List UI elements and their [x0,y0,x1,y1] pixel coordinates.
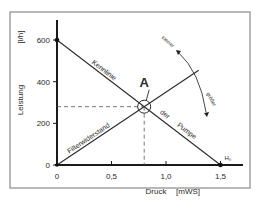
y-tick-label: 200 [37,119,51,128]
y-axis-label: Leistung [16,85,25,115]
pump-max-flow-point [55,38,60,43]
operating-point-pointer [146,90,149,101]
pump-max-head-point [218,163,223,168]
pump-curve-label-2: der [159,108,172,120]
y-tick-label: 400 [37,78,51,87]
diagram: 020040060000,51,01,5Druck[mWS]Leistung[l… [0,0,260,211]
filter-resistance-line [57,70,199,165]
shutoff-head-label: H₀ [225,155,232,161]
y-tick-label: 0 [46,161,51,170]
smaller-label: kleiner [161,34,176,48]
x-axis-label: Druck [146,187,168,196]
x-tick-label: 0 [55,172,60,181]
arrow-down-icon [204,112,209,117]
y-axis-unit: [l/h] [16,31,25,44]
operating-point-label: A [140,75,150,90]
x-axis-unit: [mWS] [176,187,200,196]
y-tick-label: 600 [37,36,51,45]
x-tick-label: 0,5 [106,172,118,181]
variation-arc [178,52,206,112]
x-tick-label: 1,0 [160,172,172,181]
filter-line-label: Filterwiderstand [66,121,111,154]
larger-label: größer [206,91,218,107]
pump-curve-label-3: Pumpe [175,121,198,141]
origin-point [55,163,59,167]
pump-curve-label-1: Kennlinie [91,58,118,81]
x-tick-label: 1,5 [215,172,227,181]
